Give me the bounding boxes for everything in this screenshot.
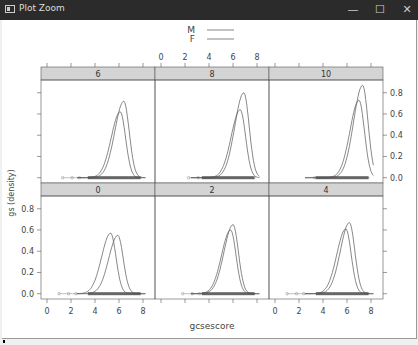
density-curve-F [77, 112, 145, 178]
panel-4: 4 [269, 183, 383, 299]
svg-text:8: 8 [368, 307, 373, 316]
svg-text:0.0: 0.0 [21, 290, 34, 299]
density-plot-lattice: MF68100240246802468024680.00.00.20.20.40… [2, 20, 416, 338]
panel-8: 8 [155, 67, 269, 183]
panel-2: 2 [155, 183, 269, 299]
plot-area: MF68100240246802468024680.00.00.20.20.40… [2, 20, 417, 339]
svg-text:2: 2 [296, 307, 301, 316]
svg-text:2: 2 [68, 307, 73, 316]
svg-text:2: 2 [182, 53, 187, 62]
density-curve-M [77, 235, 145, 293]
minimize-button[interactable]: — [338, 0, 368, 20]
svg-text:0.6: 0.6 [390, 110, 403, 119]
svg-text:0: 0 [272, 307, 277, 316]
density-curve-F [305, 229, 373, 294]
strip-label: 0 [95, 186, 100, 195]
strip-label: 2 [209, 186, 214, 195]
maximize-button[interactable]: ☐ [365, 0, 395, 20]
svg-text:0.4: 0.4 [390, 131, 403, 140]
svg-text:4: 4 [92, 307, 97, 316]
density-curve-M [305, 85, 373, 177]
strip-label: 10 [321, 70, 331, 79]
svg-text:8: 8 [140, 307, 145, 316]
density-curve-F [77, 233, 145, 294]
svg-text:6: 6 [116, 307, 121, 316]
density-curve-M [191, 225, 259, 294]
svg-text:6: 6 [344, 307, 349, 316]
svg-text:0.8: 0.8 [21, 205, 34, 214]
density-curve-M [191, 93, 259, 178]
svg-text:4: 4 [206, 53, 211, 62]
svg-text:8: 8 [254, 53, 259, 62]
svg-text:0: 0 [158, 53, 163, 62]
density-curve-M [305, 223, 373, 294]
svg-text:0.2: 0.2 [21, 268, 34, 277]
y-axis-label: gs (density) [7, 169, 16, 216]
svg-text:0.2: 0.2 [390, 152, 403, 161]
density-curve-M [77, 101, 145, 177]
svg-text:6: 6 [230, 53, 235, 62]
legend-label-F: F [190, 34, 195, 44]
density-curve-F [191, 230, 259, 294]
close-button[interactable]: ✕ [392, 0, 418, 20]
legend: MF [187, 25, 234, 44]
window-titlebar: Plot Zoom — ☐ ✕ [0, 0, 418, 20]
window-title: Plot Zoom [19, 3, 65, 13]
x-axis-label: gcsescore [189, 321, 235, 331]
strip-label: 8 [209, 70, 214, 79]
strip-label: 4 [323, 186, 328, 195]
strip-label: 6 [95, 70, 100, 79]
svg-text:4: 4 [320, 307, 325, 316]
panel-0: 0 [41, 183, 155, 299]
svg-text:0.8: 0.8 [390, 89, 403, 98]
density-curve-F [305, 100, 373, 178]
panel-6: 6 [41, 67, 155, 183]
app-icon [5, 5, 15, 13]
svg-text:0.6: 0.6 [21, 226, 34, 235]
svg-text:0.4: 0.4 [21, 247, 34, 256]
status-marker [3, 340, 5, 343]
svg-text:0: 0 [44, 307, 49, 316]
svg-text:0.0: 0.0 [390, 174, 403, 183]
panel-10: 10 [269, 67, 383, 183]
